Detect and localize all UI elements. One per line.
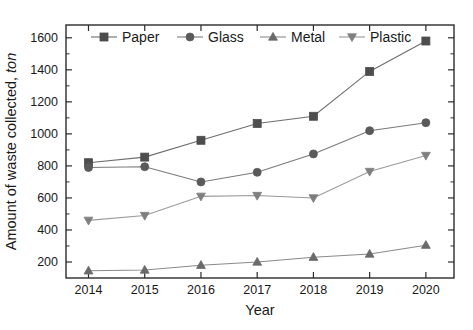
legend-marker-plastic [348,34,357,42]
data-point-glass-2017 [253,168,261,176]
x-axis-title: Year [245,302,274,318]
series-line-paper [88,41,425,163]
data-point-metal-2020 [421,241,430,249]
data-point-paper-2020 [422,37,430,45]
series-paper [84,37,429,167]
y-axis-title: Amount of waste collected, ton [3,53,19,251]
data-point-glass-2015 [141,163,149,171]
y-tick-label: 1000 [30,127,58,141]
data-point-paper-2018 [309,112,317,120]
y-tick-label: 1400 [30,63,58,77]
legend-entry-paper[interactable]: Paper [91,29,160,45]
x-tick-label: 2020 [412,283,440,297]
data-point-plastic-2019 [365,168,374,176]
data-point-paper-2015 [141,153,149,161]
data-point-paper-2019 [366,67,374,75]
data-point-paper-2017 [253,119,261,127]
data-point-glass-2016 [197,178,205,186]
x-tick-label: 2014 [75,283,103,297]
legend-entry-glass[interactable]: Glass [177,29,244,45]
y-tick-label: 400 [37,223,58,237]
data-point-plastic-2018 [309,195,318,203]
x-tick-label: 2017 [243,283,271,297]
data-point-plastic-2014 [84,217,93,225]
legend-group[interactable]: PaperGlassMetalPlastic [91,29,411,45]
series-glass [84,119,429,186]
data-point-plastic-2017 [253,192,262,200]
y-axis-title-unit: ton [3,53,19,73]
data-point-metal-2014 [84,266,93,274]
y-tick-label: 800 [37,159,58,173]
legend-marker-paper [100,33,108,41]
series-line-plastic [88,156,425,221]
y-tick-label: 200 [37,255,58,269]
legend-marker-glass [186,33,194,41]
legend-marker-metal [269,32,278,40]
legend-label-plastic: Plastic [370,29,411,45]
y-tick-label: 1200 [30,95,58,109]
x-tick-label: 2018 [300,283,328,297]
legend-label-metal: Metal [291,29,325,45]
y-tick-label: 600 [37,191,58,205]
data-point-paper-2016 [197,136,205,144]
data-point-glass-2020 [422,119,430,127]
legend-label-glass: Glass [208,29,244,45]
data-point-glass-2014 [84,164,92,172]
chart-canvas: 2004006008001000120014001600201420152016… [0,0,473,330]
x-tick-label: 2015 [131,283,159,297]
legend-entry-metal[interactable]: Metal [260,29,325,45]
plot-frame [66,25,454,278]
x-tick-label: 2016 [187,283,215,297]
series-plastic [84,152,430,225]
axes-group: 2004006008001000120014001600201420152016… [30,25,454,297]
series-metal [84,241,430,274]
data-point-glass-2018 [309,150,317,158]
y-tick-label: 1600 [30,31,58,45]
series-group [84,37,430,274]
y-axis-title-main: Amount of waste collected, [3,73,19,250]
data-point-glass-2019 [366,127,374,135]
waste-collection-line-chart: 2004006008001000120014001600201420152016… [0,0,473,330]
legend-label-paper: Paper [122,29,160,45]
legend-entry-plastic[interactable]: Plastic [339,29,411,45]
x-tick-label: 2019 [356,283,384,297]
